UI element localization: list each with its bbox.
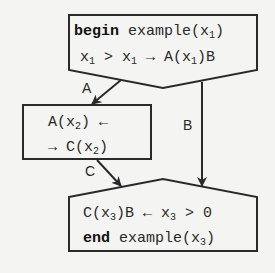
edge-c-arrow	[97, 160, 121, 186]
edge-b-label: B	[183, 117, 192, 133]
end-node-line1: C(x3)B ← x3 > 0	[83, 206, 212, 222]
middle-node-line2: → C(x2)	[48, 140, 108, 156]
end-keyword: end	[83, 230, 110, 247]
edge-c-label: C	[85, 163, 95, 179]
edge-a-label: A	[82, 80, 91, 96]
end-node-line2: end example(x3)	[83, 231, 215, 247]
start-node-line2: x1 > x1 → A(x1)B	[80, 50, 215, 66]
middle-node-line1: A(x2) ←	[48, 115, 108, 131]
begin-keyword: begin	[74, 23, 119, 40]
start-node-line1: begin example(x1)	[74, 24, 224, 40]
edge-a-arrow	[92, 80, 121, 104]
